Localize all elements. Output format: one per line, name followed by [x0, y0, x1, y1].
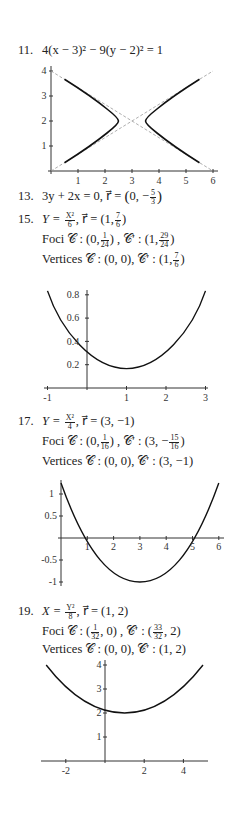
parabola-15-axis-labels: -1 1 2 3 0.2 0.4 0.6 0.8: [43, 289, 208, 403]
svg-text:-1: -1: [43, 392, 51, 403]
parabola-19-graph: [41, 660, 208, 763]
parabola-19-axis-labels: -2 2 4 1 2 3 4: [62, 659, 186, 776]
hyperbola-graph: [48, 66, 218, 174]
svg-text:2: 2: [142, 765, 147, 776]
svg-text:4: 4: [42, 65, 47, 76]
svg-text:4: 4: [181, 765, 186, 776]
svg-text:0.8: 0.8: [67, 289, 80, 300]
svg-text:0.5: 0.5: [45, 510, 58, 521]
svg-text:1: 1: [42, 140, 47, 151]
svg-text:-1: -1: [49, 576, 57, 587]
svg-text:1: 1: [76, 175, 81, 186]
svg-text:2: 2: [164, 392, 169, 403]
svg-text:1: 1: [85, 541, 90, 552]
svg-text:6: 6: [216, 541, 221, 552]
svg-text:6: 6: [211, 175, 216, 186]
svg-text:-0.5: -0.5: [41, 554, 57, 565]
svg-text:1: 1: [97, 731, 102, 742]
svg-text:3: 3: [137, 541, 142, 552]
svg-text:2: 2: [103, 175, 108, 186]
svg-text:4: 4: [164, 541, 169, 552]
svg-text:3: 3: [42, 90, 47, 101]
svg-text:3: 3: [97, 683, 102, 694]
svg-text:3: 3: [203, 392, 208, 403]
svg-text:-2: -2: [62, 765, 70, 776]
parabola-17-graph: [58, 480, 224, 586]
svg-text:1: 1: [124, 392, 129, 403]
svg-text:2: 2: [42, 115, 47, 126]
svg-text:0.2: 0.2: [67, 359, 80, 370]
svg-text:4: 4: [97, 659, 102, 670]
svg-text:0.6: 0.6: [67, 312, 80, 323]
svg-text:5: 5: [184, 175, 189, 186]
graphs-layer: 1 2 3 4 5 6 1 2 3 4 -1 1 2 3 0.2 0.4 0.6…: [0, 0, 246, 822]
svg-text:2: 2: [97, 707, 102, 718]
svg-text:5: 5: [190, 541, 195, 552]
svg-text:1: 1: [49, 488, 54, 499]
svg-text:0.4: 0.4: [67, 336, 80, 347]
hyperbola-axis-labels: 1 2 3 4 5 6 1 2 3 4: [42, 65, 216, 186]
svg-text:4: 4: [157, 175, 162, 186]
svg-text:3: 3: [130, 175, 135, 186]
svg-text:2: 2: [111, 541, 116, 552]
